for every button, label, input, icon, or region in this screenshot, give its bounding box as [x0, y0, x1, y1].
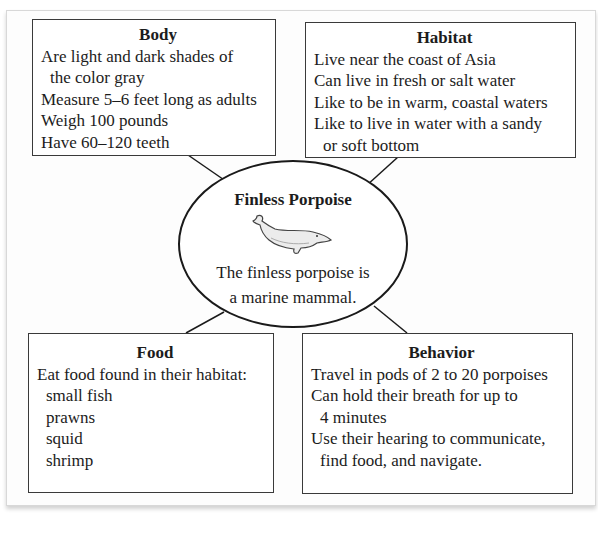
porpoise-icon: [251, 212, 335, 258]
habitat-line: Can live in fresh or salt water: [314, 70, 575, 92]
food-title: Food: [37, 342, 273, 364]
food-box: Food Eat food found in their habitat: sm…: [28, 333, 274, 493]
food-line: squid: [37, 428, 273, 450]
center-caption-line: a marine mammal.: [180, 287, 406, 308]
behavior-line: Can hold their breath for up to: [311, 385, 572, 407]
body-line: Have 60–120 teeth: [41, 132, 275, 154]
body-line: Measure 5–6 feet long as adults: [41, 89, 275, 111]
habitat-line: Live near the coast of Asia: [314, 49, 575, 71]
center-title: Finless Porpoise: [180, 190, 406, 210]
body-line: Are light and dark shades of: [41, 46, 275, 68]
food-line: Eat food found in their habitat:: [37, 364, 273, 386]
habitat-line: or soft bottom: [314, 135, 575, 157]
behavior-box: Behavior Travel in pods of 2 to 20 porpo…: [302, 333, 573, 494]
connector-food: [186, 312, 224, 333]
behavior-title: Behavior: [311, 342, 572, 364]
body-box: Body Are light and dark shades of the co…: [32, 19, 276, 156]
food-line: shrimp: [37, 450, 273, 472]
habitat-title: Habitat: [314, 27, 575, 49]
food-line: prawns: [37, 407, 273, 429]
behavior-line: Use their hearing to communicate,: [311, 428, 572, 450]
habitat-line: Like to live in water with a sandy: [314, 113, 575, 135]
center-ellipse: Finless Porpoise The finless porpoise is…: [178, 160, 408, 328]
habitat-box: Habitat Live near the coast of Asia Can …: [305, 22, 576, 158]
food-line: small fish: [37, 385, 273, 407]
body-line: the color gray: [41, 67, 275, 89]
body-line: Weigh 100 pounds: [41, 110, 275, 132]
connector-behavior: [374, 306, 407, 333]
body-title: Body: [41, 24, 275, 46]
center-caption-line: The finless porpoise is: [180, 262, 406, 283]
behavior-line: 4 minutes: [311, 407, 572, 429]
behavior-line: find food, and navigate.: [311, 450, 572, 472]
habitat-line: Like to be in warm, coastal waters: [314, 92, 575, 114]
behavior-line: Travel in pods of 2 to 20 porpoises: [311, 364, 572, 386]
